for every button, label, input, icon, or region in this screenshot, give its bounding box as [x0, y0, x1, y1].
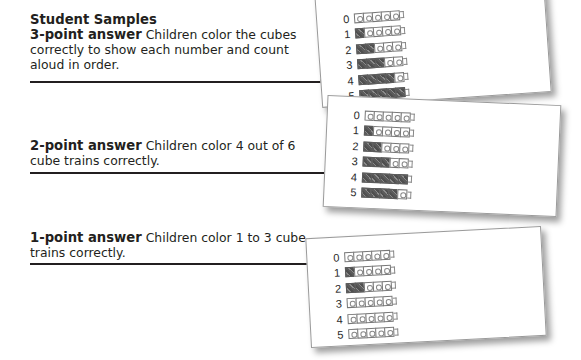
empty-cube [398, 158, 408, 168]
leader-line [30, 81, 322, 83]
empty-cube [381, 265, 392, 276]
train-number: 4 [347, 74, 359, 87]
train-number: 2 [345, 43, 357, 56]
empty-cube [382, 281, 393, 292]
cube-connector [408, 160, 412, 167]
empty-cube [400, 112, 410, 122]
train-number: 2 [352, 140, 364, 152]
colored-cube [398, 174, 408, 184]
train-number: 3 [351, 155, 363, 167]
train-number: 0 [353, 109, 365, 121]
cube-train-row: 5 [337, 324, 399, 343]
sample-card-3-point: 012345 [314, 0, 551, 108]
cube-trains: 012345 [350, 107, 415, 203]
cube-trains: 012345 [333, 247, 399, 343]
empty-cube [391, 25, 402, 36]
cube-connector [400, 11, 404, 18]
sample-3-text: Student Samples 3-point answer Children … [30, 12, 320, 72]
cube-connector [402, 42, 406, 49]
cube-trains: 012345 [343, 7, 410, 104]
empty-cube [394, 72, 405, 83]
cube-connector [407, 191, 411, 198]
cube-connector [392, 282, 396, 289]
cube-connector [390, 251, 394, 258]
cube-connector [403, 58, 407, 65]
train-number: 1 [353, 124, 365, 136]
empty-cube [380, 250, 391, 261]
empty-cube [392, 41, 403, 52]
leader-line [30, 263, 328, 265]
empty-cube [400, 127, 410, 137]
colored-cube [395, 87, 406, 98]
cube-connector [404, 73, 408, 80]
train-number: 2 [335, 282, 347, 295]
empty-cube [397, 189, 407, 199]
empty-cube [390, 10, 401, 21]
cube-connector [411, 114, 415, 121]
cube-connector [393, 297, 397, 304]
cube-connector [410, 129, 414, 136]
train-number: 0 [343, 12, 355, 25]
train-number: 1 [344, 28, 356, 41]
cube-connector [394, 328, 398, 335]
cube-connector [393, 313, 397, 320]
train-number: 0 [333, 251, 345, 264]
sample-2-text: 2-point answer Children color 4 out of 6… [30, 138, 320, 168]
train-number: 4 [351, 171, 363, 183]
cube-connector [391, 266, 395, 273]
empty-cube [384, 327, 395, 338]
cube-connector [405, 89, 409, 96]
leader-line [30, 172, 327, 174]
empty-cube [382, 296, 393, 307]
empty-cube [393, 56, 404, 67]
empty-cube [399, 143, 409, 153]
cube-connector [408, 176, 412, 183]
sample-card-2-point: 012345 [323, 95, 562, 217]
section-title: Student Samples [30, 12, 320, 27]
train-number: 5 [350, 186, 362, 198]
sample-label: 3-point answer [30, 27, 142, 42]
train-number: 4 [336, 313, 348, 326]
empty-cube [383, 311, 394, 322]
sample-label: 2-point answer [30, 138, 142, 153]
cube-connector [409, 145, 413, 152]
train-number: 5 [337, 328, 349, 341]
cube-connector [401, 27, 405, 34]
sample-label: 1-point answer [30, 230, 142, 245]
sample-card-1-point: 012345 [305, 226, 546, 348]
cube-train-row: 5 [350, 185, 412, 203]
train-number: 3 [346, 59, 358, 72]
train-number: 3 [335, 297, 347, 310]
sample-1-text: 1-point answer Children color 1 to 3 cub… [30, 230, 320, 260]
train-number: 1 [334, 266, 346, 279]
